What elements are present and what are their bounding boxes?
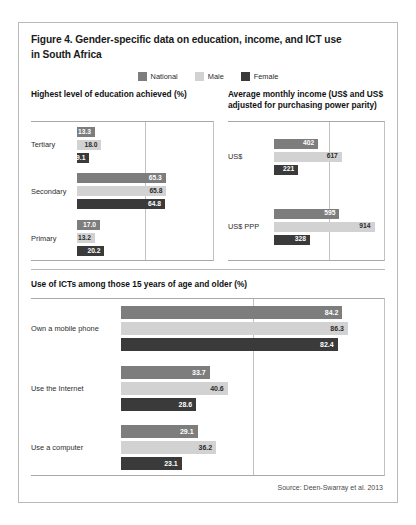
panel-ict-heading: Use of ICTs among those 15 years of age … [31,279,385,291]
gridline [384,299,385,475]
legend-label-male: Male [208,72,224,81]
bar-value: 64.8 [148,201,161,208]
legend-swatch-female [241,72,250,81]
bar-row: 13.3 [77,127,213,137]
bar-value: 914 [359,223,370,230]
legend-swatch-male [195,72,204,81]
figure-title: Figure 4. Gender-specific data on educat… [31,33,385,63]
bar-value: 36.2 [199,444,213,451]
bar-female: 23.1 [121,457,182,470]
category-group: Secondary65.365.864.8 [31,168,213,215]
bar-female: 82.4 [121,338,338,351]
category-label: Use a computer [31,443,121,452]
figure-source: Source: Deen-Swarray et al. 2013 [31,484,385,491]
figure-title-line-1: Figure 4. Gender-specific data on educat… [31,34,342,45]
bar-row: 86.3 [121,322,384,335]
section-top: Highest level of education achieved (%) … [31,89,385,270]
bar-national: 13.3 [77,127,95,137]
panel-income: Average monthly income (US$ and US$ adju… [220,89,385,261]
category-label: US$ [228,152,274,161]
bar-national: 33.7 [121,366,210,379]
bar-value: 33.7 [192,369,206,376]
legend-swatch-national [138,72,147,81]
panel-income-heading-line-1: Average monthly income (US$ and US$ [228,89,383,99]
bar-value: 20.2 [87,248,100,255]
bar-value: 82.4 [320,341,334,348]
bar-row: 221 [274,165,384,175]
bar-value: 84.2 [325,309,339,316]
bar-female: 64.8 [77,199,165,209]
panel-education-heading: Highest level of education achieved (%) [31,89,214,114]
bar-row: 20.2 [77,246,213,256]
category-label: Primary [31,234,77,243]
category-group: Use the Internet33.740.628.6 [31,359,384,418]
bar-value: 595 [324,210,335,217]
bar-national: 402 [274,139,318,149]
bar-row: 9.1 [77,153,213,163]
legend-label-national: National [151,72,178,81]
bar-row: 28.6 [121,398,384,411]
bar-row: 914 [274,222,384,232]
bar-row: 36.2 [121,441,384,454]
category-group: Tertiary13.318.09.1 [31,122,213,169]
bar-value: 13.2 [78,235,91,242]
bar-row: 595 [274,209,384,219]
section-ict: Use of ICTs among those 15 years of age … [31,270,385,477]
bar-row: 40.6 [121,382,384,395]
bar-male: 617 [274,152,342,162]
figure-title-line-2: in South Africa [31,48,385,63]
category-group: US$402617221 [228,122,384,192]
bar-row: 29.1 [121,425,384,438]
bar-value: 13.3 [78,129,91,136]
category-label: Own a mobile phone [31,324,121,333]
plot-education: Tertiary13.318.09.1Secondary65.365.864.8… [31,121,214,261]
legend-item-national: National [138,72,178,81]
bar-row: 617 [274,152,384,162]
bar-female: 328 [274,235,310,245]
bar-group: 29.136.223.1 [121,425,384,470]
bar-row: 65.3 [77,173,213,183]
bar-national: 84.2 [121,306,342,319]
bar-value: 328 [295,236,306,243]
category-group: US$ PPP595914328 [228,192,384,262]
legend-item-male: Male [195,72,224,81]
bar-row: 13.2 [77,233,213,243]
bar-value: 18.0 [84,142,97,149]
panel-income-heading-line-2: adjusted for purchasing power parity) [228,100,385,112]
bar-row: 23.1 [121,457,384,470]
bar-row: 84.2 [121,306,384,319]
bar-male: 914 [274,222,375,232]
bar-female: 9.1 [77,153,89,163]
bar-male: 18.0 [77,140,101,150]
bar-national: 29.1 [121,425,198,438]
bar-value: 617 [327,153,338,160]
category-label: Tertiary [31,140,77,149]
bar-row: 17.0 [77,220,213,230]
bar-value: 23.1 [164,460,178,467]
bar-female: 20.2 [77,246,104,256]
bar-female: 28.6 [121,398,196,411]
bar-row: 65.8 [77,186,213,196]
bar-male: 86.3 [121,322,348,335]
bar-female: 221 [274,165,298,175]
gridline [384,122,385,260]
category-label: Use the Internet [31,384,121,393]
bar-value: 28.6 [179,401,193,408]
legend-item-female: Female [241,72,279,81]
bar-row: 82.4 [121,338,384,351]
bar-group: 17.013.220.2 [77,220,213,256]
bar-group: 595914328 [274,209,384,245]
legend-label-female: Female [254,72,279,81]
category-group: Own a mobile phone84.286.382.4 [31,299,384,358]
category-group: Primary17.013.220.2 [31,215,213,262]
plot-ict: Own a mobile phone84.286.382.4Use the In… [31,298,385,476]
bar-group: 33.740.628.6 [121,366,384,411]
bar-value: 221 [283,166,294,173]
bar-male: 40.6 [121,382,228,395]
bar-value: 9.1 [76,155,85,162]
plot-rows-education: Tertiary13.318.09.1Secondary65.365.864.8… [31,122,213,262]
bar-row: 328 [274,235,384,245]
plot-income: US$402617221US$ PPP595914328 [228,121,385,261]
bar-row: 64.8 [77,199,213,209]
bar-male: 13.2 [77,233,95,243]
